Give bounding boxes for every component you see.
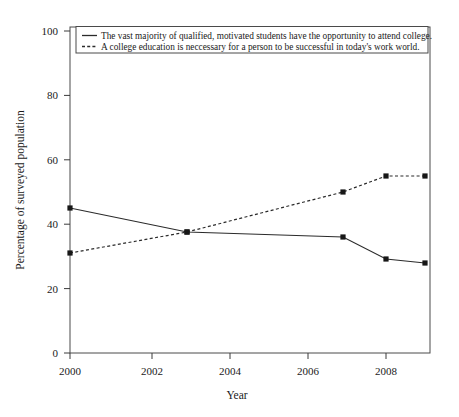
y-tick-label-4: 80 <box>47 89 59 101</box>
x-tick-label-2006: 2006 <box>297 365 320 377</box>
x-tick-label-2002: 2002 <box>141 365 163 377</box>
chart-figure: 0 20 40 60 80 100 Percentage of <box>0 0 459 417</box>
data-point-marker <box>422 173 427 178</box>
y-tick-2: 40 <box>47 218 70 230</box>
y-tick-4: 80 <box>47 89 70 101</box>
y-tick-5: 100 <box>42 25 71 37</box>
x-tick-2002: 2002 <box>141 353 163 377</box>
legend-entry-1[interactable]: A college education is neccessary for a … <box>82 42 419 52</box>
x-tick-2000: 2000 <box>59 353 82 377</box>
data-point-marker <box>422 260 427 265</box>
y-tick-3: 60 <box>47 154 70 166</box>
data-point-marker <box>340 189 345 194</box>
legend-label-1: A college education is neccessary for a … <box>101 42 419 52</box>
y-tick-label-0: 0 <box>53 347 59 359</box>
line-chart: 0 20 40 60 80 100 Percentage of <box>0 0 459 417</box>
data-point-marker <box>340 234 345 239</box>
chart-legend: The vast majority of qualified, motivate… <box>76 27 432 54</box>
y-tick-label-2: 40 <box>47 218 59 230</box>
data-point-marker <box>67 205 72 210</box>
x-tick-label-2004: 2004 <box>219 365 242 377</box>
y-axis-title: Percentage of surveyed population <box>14 110 27 270</box>
x-tick-label-2008: 2008 <box>375 365 398 377</box>
x-tick-2004: 2004 <box>219 353 242 377</box>
data-point-marker <box>67 250 72 255</box>
y-tick-label-1: 20 <box>47 283 59 295</box>
y-tick-label-5: 100 <box>42 25 59 37</box>
x-tick-label-2000: 2000 <box>59 365 82 377</box>
x-axis: 2000 2002 2004 2006 2008 Year <box>59 353 398 401</box>
legend-label-0: The vast majority of qualified, motivate… <box>101 31 432 41</box>
data-point-marker <box>184 229 189 234</box>
y-tick-1: 20 <box>47 283 70 295</box>
legend-entry-0[interactable]: The vast majority of qualified, motivate… <box>82 31 432 41</box>
x-axis-title: Year <box>226 389 247 401</box>
x-tick-2008: 2008 <box>375 353 398 377</box>
x-tick-2006: 2006 <box>297 353 320 377</box>
y-tick-label-3: 60 <box>47 154 59 166</box>
data-point-marker <box>383 256 388 261</box>
plot-frame <box>70 27 430 353</box>
y-tick-0: 0 <box>53 347 71 359</box>
y-axis: 0 20 40 60 80 100 Percentage of <box>14 25 70 359</box>
data-point-marker <box>383 173 388 178</box>
